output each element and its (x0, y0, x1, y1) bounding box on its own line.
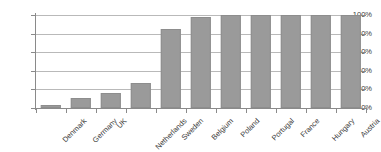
x-axis-tick-label: Sweden (180, 117, 204, 141)
x-axis-tick-mark (186, 109, 187, 113)
x-axis-tick-label: Netherlands (154, 117, 188, 151)
bar[interactable] (251, 15, 271, 108)
bar-slot (246, 15, 276, 108)
bar-slot (336, 15, 366, 108)
bar[interactable] (221, 15, 241, 108)
x-axis-tick-mark (306, 109, 307, 113)
bar[interactable] (71, 98, 91, 108)
x-axis-tick-label: UK (115, 117, 128, 130)
bar-slot (216, 15, 246, 108)
bar[interactable] (101, 93, 121, 108)
bar-slot (156, 15, 186, 108)
bar[interactable] (41, 105, 61, 108)
bar[interactable] (161, 29, 181, 108)
bar-slot (36, 15, 66, 108)
bar-slot (186, 15, 216, 108)
x-axis-tick-mark (216, 109, 217, 113)
x-axis-tick-mark (126, 109, 127, 113)
x-axis-tick-mark (246, 109, 247, 113)
bar[interactable] (341, 15, 361, 108)
x-axis-tick-label: Denmark (61, 117, 88, 144)
x-axis-tick-mark (96, 109, 97, 113)
bar-slot (126, 15, 156, 108)
bar-series (36, 15, 366, 108)
bar-slot (66, 15, 96, 108)
x-axis-line (35, 108, 367, 109)
bar-slot (96, 15, 126, 108)
x-axis-tick-label: Germany (91, 117, 118, 144)
bar-slot (306, 15, 336, 108)
x-axis-tick-label: Portugal (270, 117, 295, 142)
x-axis-tick-label: Poland (239, 117, 261, 139)
bar[interactable] (131, 83, 151, 108)
x-axis-tick-mark (366, 109, 367, 113)
bar[interactable] (281, 15, 301, 108)
x-axis-tick-mark (36, 109, 37, 113)
x-axis-tick-label: France (299, 117, 321, 139)
x-axis-tick-mark (336, 109, 337, 113)
x-axis-tick-label: Austria (359, 117, 381, 139)
x-axis-tick-mark (156, 109, 157, 113)
x-axis-tick-mark (276, 109, 277, 113)
bar[interactable] (311, 15, 331, 108)
x-axis-tick-mark (66, 109, 67, 113)
bar-slot (276, 15, 306, 108)
bar[interactable] (191, 17, 211, 108)
x-axis-tick-label: Belgium (210, 117, 234, 141)
x-axis-tick-label: Hungary (330, 117, 355, 142)
